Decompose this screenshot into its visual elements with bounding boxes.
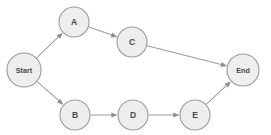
arrowhead-icon	[220, 62, 227, 67]
flowchart-graph: StartACEndBDE	[0, 0, 271, 135]
edge-a-c	[89, 27, 118, 37]
diagram-canvas: StartACEndBDE	[0, 0, 271, 135]
edge-b-d	[91, 112, 118, 117]
node-b[interactable]: B	[60, 100, 90, 130]
edge-e-end	[206, 81, 231, 104]
arrowhead-icon	[173, 112, 179, 117]
node-label: E	[192, 110, 198, 120]
edge-line	[206, 85, 227, 105]
node-label: C	[129, 37, 135, 47]
node-e[interactable]: E	[180, 100, 210, 130]
node-a[interactable]: A	[59, 7, 89, 37]
edge-line	[37, 36, 60, 58]
edge-line	[147, 46, 222, 65]
arrowhead-icon	[111, 32, 118, 37]
arrowhead-icon	[111, 112, 117, 117]
edge-line	[89, 27, 113, 35]
edge-c-end	[147, 46, 227, 67]
node-d[interactable]: D	[118, 100, 148, 130]
node-end[interactable]: End	[227, 54, 259, 86]
node-label: Start	[16, 66, 33, 75]
edge-start-a	[37, 33, 63, 58]
node-start[interactable]: Start	[7, 53, 41, 87]
edge-line	[37, 82, 60, 102]
edge-d-e	[149, 112, 180, 117]
node-label: D	[130, 110, 136, 120]
node-label: B	[72, 110, 78, 120]
node-label: End	[236, 66, 250, 75]
node-label: A	[71, 17, 77, 27]
node-layer: StartACEndBDE	[7, 7, 259, 130]
node-c[interactable]: C	[117, 27, 147, 57]
edge-start-b	[37, 82, 63, 105]
